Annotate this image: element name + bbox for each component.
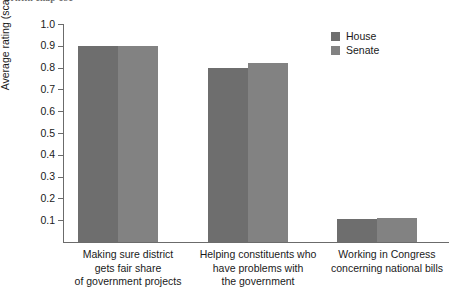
y-axis-tick-label: 0.2 bbox=[29, 193, 55, 204]
bar-house bbox=[337, 219, 377, 242]
y-axis-tick-label: 0.9 bbox=[29, 40, 55, 51]
category-label-line: the government bbox=[180, 275, 336, 289]
category-label-line: concerning national bills bbox=[307, 262, 467, 276]
legend-item-house: House bbox=[331, 29, 379, 43]
bar-house bbox=[78, 46, 118, 242]
grouped-bar-chart: 1.00.90.80.70.60.50.40.30.20.1 Average r… bbox=[0, 0, 472, 295]
y-axis-tick-label: 0.7 bbox=[29, 84, 55, 95]
category-label-line: Working in Congress bbox=[307, 248, 467, 262]
bar-group bbox=[78, 24, 158, 242]
legend-item-senate: Senate bbox=[331, 43, 379, 57]
y-axis-tick-label: 0.1 bbox=[29, 215, 55, 226]
y-axis-tick-label: 1.0 bbox=[29, 19, 55, 30]
x-axis-category-label: Working in Congressconcerning national b… bbox=[307, 248, 467, 275]
legend-label: House bbox=[346, 31, 376, 42]
y-axis-tick-label: 0.5 bbox=[29, 128, 55, 139]
y-axis-tick-label: 0.8 bbox=[29, 62, 55, 73]
plot-area bbox=[63, 24, 449, 242]
chart-legend: HouseSenate bbox=[331, 29, 379, 57]
legend-label: Senate bbox=[346, 45, 379, 56]
y-axis-tick-label: 0.6 bbox=[29, 106, 55, 117]
bar-senate bbox=[248, 63, 288, 242]
x-axis-line bbox=[63, 242, 449, 243]
legend-color-swatch bbox=[331, 32, 340, 41]
bar-group bbox=[208, 24, 288, 242]
y-axis-title: Average rating (scale of 0–1) bbox=[0, 0, 11, 133]
bar-senate bbox=[118, 46, 158, 242]
y-axis-tick-label: 0.4 bbox=[29, 149, 55, 160]
bar-house bbox=[208, 68, 248, 242]
bar-senate bbox=[377, 218, 417, 242]
y-axis-tick-label: 0.3 bbox=[29, 171, 55, 182]
legend-color-swatch bbox=[331, 46, 340, 55]
